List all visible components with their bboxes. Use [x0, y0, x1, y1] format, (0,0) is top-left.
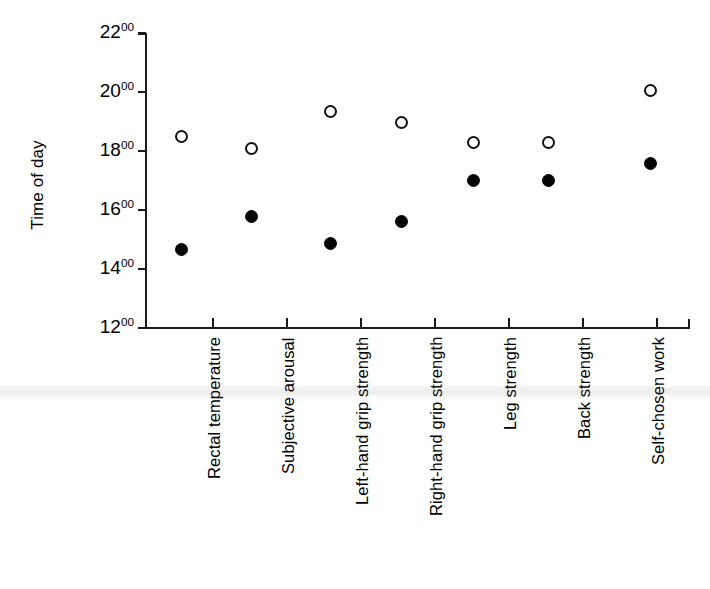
x-axis-tick [508, 318, 510, 329]
y-axis-tick [138, 268, 146, 270]
y-axis-tick [138, 209, 146, 211]
x-axis-tick [286, 318, 288, 329]
x-axis-tick [582, 318, 584, 329]
y-axis-tick [138, 91, 146, 93]
data-point-open-circle [175, 130, 188, 143]
y-axis-tick-label-text: 1200 [72, 317, 134, 336]
y-axis-tick-label: 1600 [62, 199, 134, 219]
y-axis-tick-label: 1800 [62, 140, 134, 160]
x-axis-category-label: Right-hand grip strength [427, 337, 446, 516]
data-point-filled-circle [175, 243, 188, 256]
y-axis-tick-label-text: 1800 [72, 140, 134, 159]
data-point-open-circle [644, 84, 657, 97]
y-axis-title: Time of day [28, 100, 48, 270]
y-axis-tick-label-text: 2000 [72, 81, 134, 100]
data-point-filled-circle [467, 174, 480, 187]
y-axis-tick-label: 1200 [62, 317, 134, 337]
y-axis-tick-label-text: 2200 [72, 22, 134, 41]
y-axis-line [145, 33, 147, 329]
y-axis-tick [138, 32, 146, 34]
data-point-filled-circle [324, 237, 337, 250]
y-axis-tick-label: 2200 [62, 22, 134, 42]
y-axis-tick [138, 327, 146, 329]
data-point-filled-circle [245, 210, 258, 223]
data-point-filled-circle [644, 157, 657, 170]
y-axis-tick-label-text: 1600 [72, 199, 134, 218]
data-point-open-circle [324, 105, 337, 118]
y-axis-tick-label-text: 1400 [72, 258, 134, 277]
data-point-open-circle [395, 116, 408, 129]
x-axis-category-label: Subjective arousal [279, 337, 298, 474]
data-point-open-circle [542, 136, 555, 149]
y-axis-tick-label: 2000 [62, 81, 134, 101]
data-point-open-circle [467, 136, 480, 149]
x-axis-tick [212, 318, 214, 329]
data-point-open-circle [245, 142, 258, 155]
x-axis-category-label: Rectal temperature [205, 337, 224, 479]
x-axis-line [145, 327, 690, 329]
x-axis-tick [656, 318, 658, 329]
data-point-filled-circle [542, 174, 555, 187]
y-axis-tick-label: 1400 [62, 258, 134, 278]
x-axis-tick [360, 318, 362, 329]
x-axis-right-cap [688, 319, 690, 329]
x-axis-category-label: Left-hand grip strength [353, 337, 372, 505]
data-point-filled-circle [395, 215, 408, 228]
x-axis-category-label: Back strength [575, 337, 594, 439]
y-axis-tick [138, 150, 146, 152]
scatter-chart-figure: Time of day 120014001600180020002200 Rec… [0, 0, 710, 589]
x-axis-category-label: Leg strength [501, 337, 520, 430]
x-axis-tick [434, 318, 436, 329]
x-axis-category-label: Self-chosen work [649, 337, 668, 465]
